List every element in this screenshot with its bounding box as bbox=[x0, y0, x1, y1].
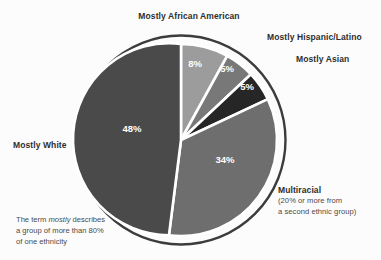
slice-value-white: 48% bbox=[122, 123, 142, 134]
footnote-emphasis: mostly bbox=[49, 215, 71, 224]
chart-footnote: The term mostly describes a group of mor… bbox=[16, 214, 105, 247]
label-mostly-hispanic-latino: Mostly Hispanic/Latino bbox=[267, 33, 362, 43]
label-multiracial-group: Multiracial (20% or more from a second e… bbox=[278, 186, 356, 217]
slice-value-asian: 5% bbox=[240, 81, 254, 92]
label-multiracial: Multiracial bbox=[278, 185, 321, 195]
footnote-line-2: a group of more than 80% bbox=[16, 225, 105, 236]
label-mostly-african-american: Mostly African American bbox=[138, 12, 239, 22]
label-mostly-white: Mostly White bbox=[13, 141, 67, 151]
slice-value-multiracial: 34% bbox=[215, 154, 235, 165]
footnote-line-1b: describes bbox=[70, 215, 105, 224]
label-mostly-asian: Mostly Asian bbox=[296, 55, 349, 65]
pie-chart: 8% 5% 5% 34% 48% Mostly African American… bbox=[0, 0, 381, 260]
footnote-line-1: The term mostly describes bbox=[16, 214, 105, 225]
footnote-line-1a: The term bbox=[16, 215, 49, 224]
label-multiracial-sub-line2: a second ethnic group) bbox=[278, 207, 356, 218]
slice-value-hispanic-latino: 5% bbox=[220, 63, 234, 74]
label-multiracial-sub-line1: (20% or more from bbox=[278, 196, 356, 207]
slice-value-african-american: 8% bbox=[188, 58, 202, 69]
pie-slice-white bbox=[73, 43, 181, 235]
footnote-line-3: of one ethnicity bbox=[16, 236, 105, 247]
